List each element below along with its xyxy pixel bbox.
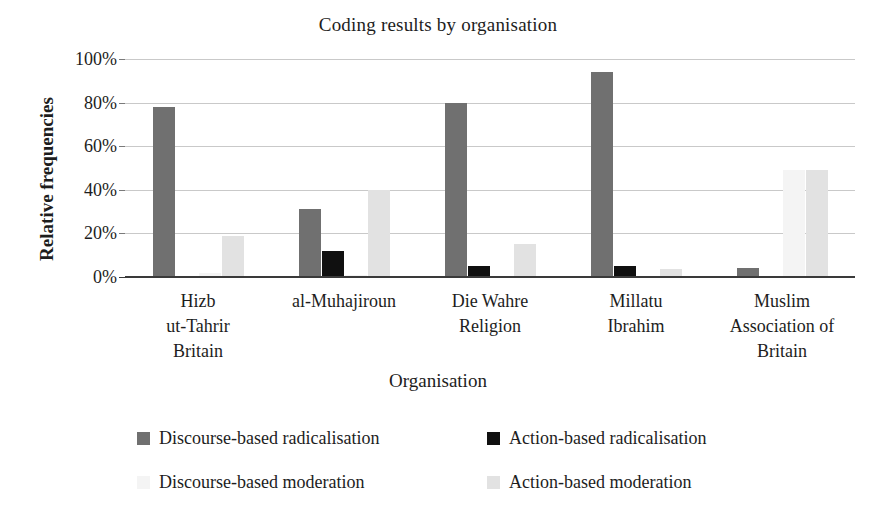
x-axis-category-label-line: Millatu	[563, 289, 709, 314]
bar	[153, 107, 175, 277]
x-axis-line	[125, 276, 855, 278]
gridline	[125, 59, 855, 60]
x-axis-category-label-line: Die Wahre	[417, 289, 563, 314]
bar	[299, 209, 321, 277]
gridline	[125, 103, 855, 104]
bar-chart: Coding results by organisation Relative …	[0, 0, 876, 513]
y-axis-tick-label: 60%	[55, 137, 117, 155]
legend-label: Action-based radicalisation	[509, 428, 706, 449]
bar	[222, 236, 244, 277]
legend-label: Discourse-based radicalisation	[159, 428, 379, 449]
y-axis-tick-label: 80%	[55, 94, 117, 112]
legend-label: Action-based moderation	[509, 472, 691, 493]
bar	[783, 170, 805, 277]
chart-legend: Discourse-based radicalisationAction-bas…	[0, 415, 876, 505]
bar	[368, 190, 390, 277]
legend-swatch	[137, 476, 150, 489]
chart-title: Coding results by organisation	[0, 14, 876, 36]
plot-area	[125, 59, 855, 277]
y-axis-tick-label: 0%	[55, 268, 117, 286]
x-axis-category-label-line: Religion	[417, 314, 563, 339]
x-axis-category-label: MillatuIbrahim	[563, 289, 709, 339]
x-axis-category-label-line: ut-Tahrir	[125, 314, 271, 339]
legend-item[interactable]: Discourse-based moderation	[137, 472, 364, 493]
x-axis-category-label: Hizbut-TahrirBritain	[125, 289, 271, 364]
gridline	[125, 233, 855, 234]
x-axis-category-label: al-Muhajiroun	[271, 289, 417, 314]
x-axis-category-label-line: Britain	[125, 339, 271, 364]
bar	[591, 72, 613, 277]
legend-item[interactable]: Discourse-based radicalisation	[137, 428, 379, 449]
y-axis-tick-label: 20%	[55, 224, 117, 242]
legend-item[interactable]: Action-based moderation	[487, 472, 691, 493]
y-axis-tick-label: 40%	[55, 181, 117, 199]
legend-swatch	[487, 432, 500, 445]
legend-swatch	[487, 476, 500, 489]
x-axis-category-label-line: Association of	[709, 314, 855, 339]
x-axis-category-label-line: Hizb	[125, 289, 271, 314]
bar	[806, 170, 828, 277]
x-axis-category-label-line: al-Muhajiroun	[271, 289, 417, 314]
gridline	[125, 146, 855, 147]
x-axis-category-label-line: Muslim	[709, 289, 855, 314]
x-axis-category-label-line: Britain	[709, 339, 855, 364]
gridline	[125, 190, 855, 191]
x-axis-category-label: MuslimAssociation ofBritain	[709, 289, 855, 364]
bar	[322, 251, 344, 277]
legend-swatch	[137, 432, 150, 445]
x-axis-category-label-line: Ibrahim	[563, 314, 709, 339]
y-axis-tick-label: 100%	[55, 50, 117, 68]
x-axis-category-label: Die WahreReligion	[417, 289, 563, 339]
legend-label: Discourse-based moderation	[159, 472, 364, 493]
bar	[445, 103, 467, 277]
legend-item[interactable]: Action-based radicalisation	[487, 428, 706, 449]
x-axis-title: Organisation	[0, 370, 876, 392]
bar	[514, 244, 536, 277]
